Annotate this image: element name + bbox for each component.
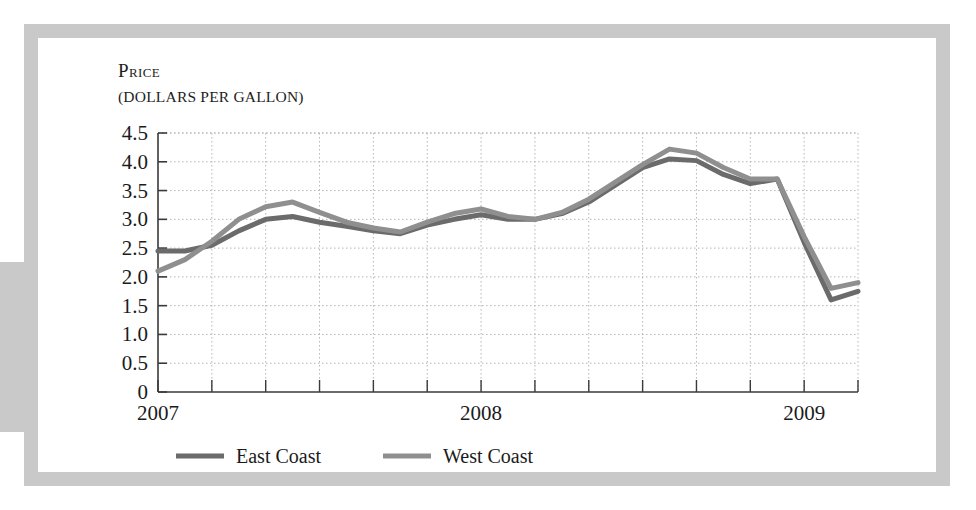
grid-lines [158,133,858,392]
y-axis-tick-label: 4.0 [122,150,148,174]
x-axis-tick-label: 2009 [783,401,825,425]
y-axis-tick-label: 4.5 [122,121,148,145]
axis-tick-marks [158,133,858,392]
x-axis-tick-label: 2008 [460,401,502,425]
y-axis-tick-label: 3.0 [122,207,148,231]
chart-legend: East CoastWest Coast [176,445,533,467]
y-axis-tick-label: 0.5 [122,351,148,375]
x-axis-tick-labels: 200720082009 [137,401,825,425]
legend-label-east-coast: East Coast [236,445,321,467]
y-axis-tick-label: 1.0 [122,322,148,346]
left-edge-tab [0,262,38,432]
legend-label-west-coast: West Coast [443,445,533,467]
y-axis-tick-label: 2.5 [122,236,148,260]
line-chart-plot: 00.51.01.52.02.53.03.54.04.5 20072008200… [38,38,936,472]
y-axis-tick-label: 1.5 [122,294,148,318]
y-axis-tick-label: 2.0 [122,265,148,289]
y-axis-tick-label: 3.5 [122,179,148,203]
axis-lines [158,133,858,392]
figure-root: Price (DOLLARS PER GALLON) 00.51.01.52.0… [0,0,976,510]
x-axis-tick-label: 2007 [137,401,179,425]
y-axis-tick-labels: 00.51.01.52.02.53.03.54.04.5 [122,121,148,404]
chart-container: Price (DOLLARS PER GALLON) 00.51.01.52.0… [38,38,936,472]
